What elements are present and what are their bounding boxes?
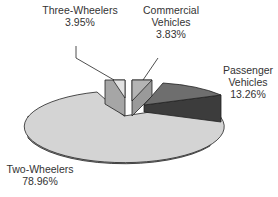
label-three-wheelers-name: Three-Wheelers [40,4,120,16]
label-commercial-name-2: Vehicles [138,16,204,28]
leader-commercial [143,58,158,80]
label-passenger: Passenger Vehicles 13.26% [218,64,278,100]
label-two-wheelers: Two-Wheelers 78.96% [4,163,76,187]
label-three-wheelers-value: 3.95% [40,16,120,28]
label-three-wheelers: Three-Wheelers 3.95% [40,4,120,28]
label-commercial-name-1: Commercial [138,4,204,16]
label-passenger-name-2: Vehicles [218,76,278,88]
label-passenger-name-1: Passenger [218,64,278,76]
label-commercial-value: 3.83% [138,28,204,40]
label-commercial: Commercial Vehicles 3.83% [138,4,204,40]
label-two-wheelers-value: 78.96% [4,175,76,187]
label-passenger-value: 13.26% [218,88,278,100]
leader-three-wheelers [76,46,114,80]
label-two-wheelers-name: Two-Wheelers [4,163,76,175]
